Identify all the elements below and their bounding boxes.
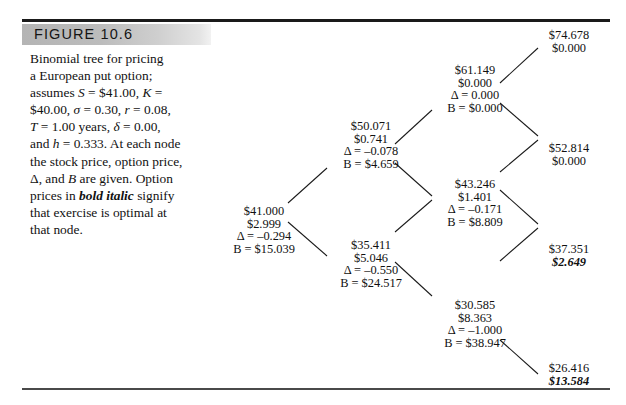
tree-node-n3uud[interactable]: $52.814 $0.000 bbox=[549, 142, 589, 167]
tree-node-n3ddd[interactable]: $26.416 $13.584 bbox=[549, 362, 589, 387]
caption-line-4-mid: = 0.30, bbox=[80, 102, 124, 117]
node-delta: Δ = –1.000 bbox=[444, 324, 506, 337]
node-delta: Δ = –0.171 bbox=[447, 203, 503, 216]
symbol-delta-upper: Δ bbox=[30, 171, 39, 186]
figure-caption: Binomial tree for pricing a European put… bbox=[30, 50, 220, 238]
edge-n1u-n2uu bbox=[395, 110, 432, 144]
node-delta: Δ = –0.550 bbox=[340, 264, 402, 277]
edge-n1u-n2ud bbox=[395, 163, 432, 196]
node-stock-price: $30.585 bbox=[444, 299, 506, 312]
node-stock-price: $35.411 bbox=[340, 239, 402, 252]
caption-line-5-text: = 1.00 years, bbox=[37, 119, 113, 134]
edge-n2dd-n3udd bbox=[500, 228, 538, 261]
caption-line-5-end: = 0.00, bbox=[120, 119, 161, 134]
tree-node-n3udd[interactable]: $37.351 $2.649 bbox=[549, 243, 589, 268]
caption-line-9-end: signify bbox=[134, 188, 175, 203]
tree-node-n3uuu[interactable]: $74.678 $0.000 bbox=[549, 29, 589, 54]
node-stock-price: $74.678 bbox=[549, 29, 589, 42]
tree-node-n2ud[interactable]: $43.246 $1.401 Δ = –0.171 B = $8.809 bbox=[447, 178, 503, 228]
node-stock-price: $52.814 bbox=[549, 142, 589, 155]
caption-line-3-mid: = $41.00, bbox=[85, 85, 143, 100]
node-option-price-early-exercise: $2.649 bbox=[549, 256, 589, 269]
node-option-price: $0.000 bbox=[549, 42, 589, 55]
edge-n2uu-n3uud bbox=[500, 103, 538, 136]
caption-line-8-end: are given. Option bbox=[76, 171, 173, 186]
edge-n2ud-n3uud bbox=[500, 140, 538, 172]
node-option-price-early-exercise: $13.584 bbox=[549, 375, 589, 388]
caption-line-10: that exercise is optimal at bbox=[30, 205, 167, 220]
node-bond: B = $4.659 bbox=[343, 158, 399, 171]
tree-node-n2dd[interactable]: $30.585 $8.363 Δ = –1.000 B = $38.947 bbox=[444, 299, 506, 349]
edge-n2uu-n3uuu bbox=[500, 48, 538, 83]
tree-node-n0[interactable]: $41.000 $2.999 Δ = –0.294 B = $15.039 bbox=[233, 205, 295, 255]
caption-line-3-text: assumes bbox=[30, 85, 78, 100]
node-stock-price: $37.351 bbox=[549, 243, 589, 256]
tree-node-n1u[interactable]: $50.071 $0.741 Δ = –0.078 B = $4.659 bbox=[343, 120, 399, 170]
node-stock-price: $26.416 bbox=[549, 362, 589, 375]
caption-line-11: that node. bbox=[30, 222, 83, 237]
caption-line-4-text: $40.00, bbox=[30, 102, 74, 117]
node-bond: B = $24.517 bbox=[340, 277, 402, 290]
tree-node-n1d[interactable]: $35.411 $5.046 Δ = –0.550 B = $24.517 bbox=[340, 239, 402, 289]
node-stock-price: $50.071 bbox=[343, 120, 399, 133]
top-rule bbox=[22, 19, 610, 22]
caption-line-3-end: = bbox=[151, 85, 162, 100]
edge-n1d-n2ud bbox=[395, 200, 432, 232]
node-option-price: $0.000 bbox=[549, 155, 589, 168]
caption-line-2: a European put option; bbox=[30, 68, 152, 83]
edge-n2ud-n3udd bbox=[500, 190, 538, 224]
node-delta: Δ = 0.000 bbox=[447, 89, 503, 102]
caption-line-7: the stock price, option price, bbox=[30, 154, 182, 169]
node-bond: B = $0.000 bbox=[447, 102, 503, 115]
caption-line-8-text: , and bbox=[39, 171, 68, 186]
caption-line-6-end: = 0.333. At each node bbox=[59, 136, 180, 151]
node-stock-price: $43.246 bbox=[447, 178, 503, 191]
node-bond: B = $38.947 bbox=[444, 337, 506, 350]
node-stock-price: $61.149 bbox=[447, 64, 503, 77]
symbol-B: B bbox=[68, 171, 76, 186]
node-delta: Δ = –0.294 bbox=[233, 230, 295, 243]
node-delta: Δ = –0.078 bbox=[343, 145, 399, 158]
symbol-S: S bbox=[78, 85, 85, 100]
node-bond: B = $8.809 bbox=[447, 216, 503, 229]
caption-line-1: Binomial tree for pricing bbox=[30, 51, 164, 66]
node-bond: B = $15.039 bbox=[233, 243, 295, 256]
caption-line-6-text: and bbox=[30, 136, 53, 151]
bold-italic-emphasis: bold italic bbox=[79, 188, 134, 203]
caption-line-4-end: = 0.08, bbox=[130, 102, 171, 117]
bottom-rule bbox=[22, 388, 610, 390]
figure-number-label: FIGURE 10.6 bbox=[34, 26, 133, 42]
node-stock-price: $41.000 bbox=[233, 205, 295, 218]
figure-header-band: FIGURE 10.6 bbox=[22, 24, 211, 45]
edge-n0-n1u bbox=[288, 168, 327, 203]
figure-container: FIGURE 10.6 Binomial tree for pricing a … bbox=[0, 0, 626, 405]
caption-line-9-text: prices in bbox=[30, 188, 79, 203]
tree-node-n2uu[interactable]: $61.149 $0.000 Δ = 0.000 B = $0.000 bbox=[447, 64, 503, 114]
